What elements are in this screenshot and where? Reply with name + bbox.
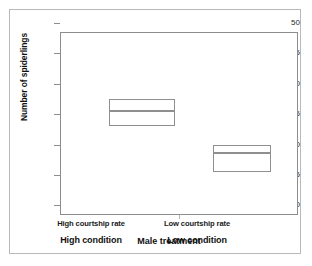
y-tick-mark-50 bbox=[54, 23, 60, 24]
figure-frame: 50 45 40 35 30 25 20 Number of spiderlin… bbox=[9, 9, 301, 254]
median-low-condition bbox=[213, 152, 271, 154]
x-category-low-line1: Low courtship rate bbox=[137, 219, 257, 228]
x-axis-title: Male treatment bbox=[50, 236, 288, 246]
x-category-high-line1: High courtship rate bbox=[31, 219, 151, 228]
box-low-condition bbox=[213, 145, 271, 172]
y-tick-label-50: 50 bbox=[284, 19, 300, 27]
boxplot-high-condition bbox=[109, 33, 175, 216]
box-high-condition bbox=[109, 99, 175, 126]
median-high-condition bbox=[109, 110, 175, 112]
boxplot-low-condition bbox=[213, 33, 271, 216]
plot-area bbox=[60, 32, 298, 215]
boxplot-figure: 50 45 40 35 30 25 20 Number of spiderlin… bbox=[0, 0, 312, 266]
y-axis-title: Number of spiderlings bbox=[19, 17, 29, 137]
